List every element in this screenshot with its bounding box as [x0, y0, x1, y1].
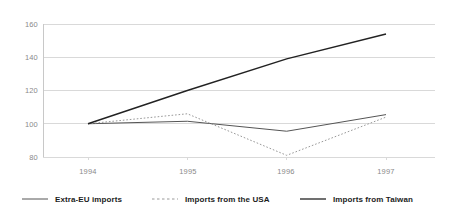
series-line	[88, 114, 386, 156]
legend-entry-usa: Imports from the USA	[152, 190, 270, 208]
legend-swatch-solid-icon	[22, 194, 48, 204]
legend-swatch-dotted-icon	[152, 194, 178, 204]
legend-label: Extra-EU imports	[55, 195, 122, 204]
legend-entry-taiwan: Imports from Taiwan	[300, 190, 413, 208]
legend-label: Imports from the USA	[185, 195, 270, 204]
legend-entry-extra-eu: Extra-EU imports	[22, 190, 122, 208]
series-line	[88, 115, 386, 132]
legend-label: Imports from Taiwan	[333, 195, 413, 204]
legend: Extra-EU imports Imports from the USA Im…	[0, 190, 457, 212]
axis-lines	[43, 24, 386, 160]
legend-swatch-solid-icon	[300, 194, 326, 204]
line-chart: 160 140 120 100 80 1994 1995 1996 1997 E…	[0, 0, 457, 220]
plot-area	[0, 0, 457, 220]
series-lines	[88, 34, 386, 155]
gridlines	[43, 24, 435, 157]
series-line	[88, 34, 386, 124]
